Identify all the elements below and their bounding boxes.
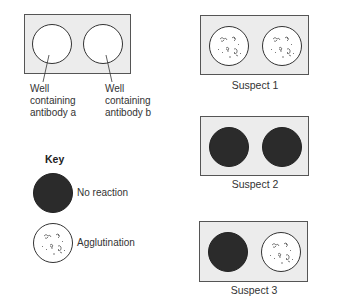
agglutination-icon [210,27,249,66]
suspect-2-well-a-no-reaction [209,127,249,167]
label-antibody-b: Well containing antibody b [105,83,151,119]
suspect-2-label: Suspect 2 [200,178,310,190]
suspect-2-plate [200,116,309,176]
agglutination-icon [34,224,73,263]
label-antibody-a: Well containing antibody a [30,83,76,119]
suspect-1-plate [200,15,309,75]
label-line: containing [105,95,151,107]
suspect-2-well-b-no-reaction [262,127,302,167]
label-line: Well [105,83,151,95]
key-no-reaction-icon [33,173,73,213]
suspect-1-label: Suspect 1 [200,79,310,91]
key-title: Key [45,153,64,165]
key-no-reaction-label: No reaction [77,187,128,199]
agglutination-icon [262,233,301,272]
label-line: Well [30,83,76,95]
label-line: antibody a [30,107,76,119]
suspect-1-well-a-agglutination [209,26,249,66]
key-agglutination-label: Agglutination [77,237,135,249]
label-line: containing [30,95,76,107]
key-agglutination-icon [33,223,73,263]
suspect-3-well-b-agglutination [261,232,301,272]
label-line: antibody b [105,107,151,119]
suspect-1-well-b-agglutination [262,26,302,66]
suspect-3-label: Suspect 3 [199,284,309,296]
suspect-3-well-a-no-reaction [208,232,248,272]
suspect-3-plate [199,221,308,282]
agglutination-icon [263,27,302,66]
